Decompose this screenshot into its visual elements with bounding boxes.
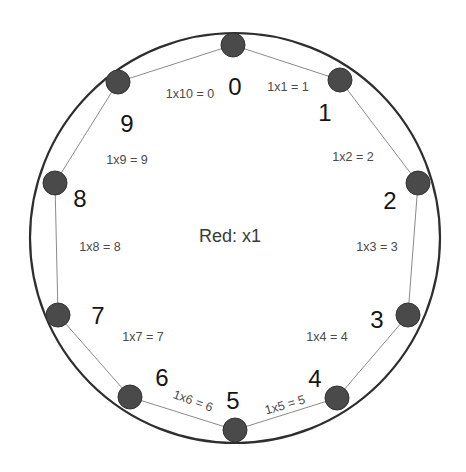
node-dot-5 [223, 418, 247, 442]
node-dot-3 [396, 303, 420, 327]
product-label-5: 1x5 = 5 [263, 393, 307, 418]
digit-label-8: 8 [73, 185, 86, 212]
node-dot-2 [406, 171, 430, 195]
product-label-7: 1x7 = 7 [122, 330, 163, 344]
digit-label-4: 4 [308, 365, 321, 392]
node-dot-9 [106, 70, 130, 94]
node-dot-8 [43, 171, 67, 195]
digit-label-0: 0 [228, 73, 241, 100]
node-dot-7 [46, 303, 70, 327]
digit-label-2: 2 [383, 187, 396, 214]
product-label-3: 1x3 = 3 [356, 240, 397, 254]
digit-label-3: 3 [370, 306, 383, 333]
node-dot-6 [118, 385, 142, 409]
node-dot-0 [221, 33, 245, 57]
product-label-2: 1x2 = 2 [332, 150, 373, 164]
product-label-6: 1x6 = 6 [171, 387, 215, 414]
node-dot-1 [328, 68, 352, 92]
product-label-8: 1x8 = 8 [79, 240, 120, 254]
product-label-4: 1x4 = 4 [306, 330, 347, 344]
digit-label-9: 9 [120, 110, 133, 137]
product-label-10: 1x10 = 0 [166, 87, 214, 101]
digit-label-6: 6 [155, 364, 168, 391]
node-dot-4 [325, 386, 349, 410]
product-label-1: 1x1 = 1 [267, 80, 308, 94]
digit-label-5: 5 [226, 387, 239, 414]
multiplication-circle-diagram: 0 1 2 3 4 5 6 7 8 9 1x1 = 1 1x2 = 2 1x3 … [0, 0, 466, 472]
product-label-9: 1x9 = 9 [106, 153, 147, 167]
digit-label-1: 1 [318, 99, 331, 126]
digit-label-7: 7 [91, 302, 104, 329]
center-label: Red: x1 [199, 226, 261, 246]
